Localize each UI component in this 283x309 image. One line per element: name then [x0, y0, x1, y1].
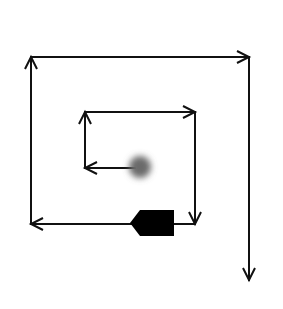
arrow-seg-8 [243, 57, 255, 280]
spiral-diagram [0, 0, 283, 309]
arrow-seg-1 [85, 162, 135, 174]
arrow-seg-7 [31, 51, 249, 63]
arrow-seg-2 [79, 112, 91, 168]
arrow-seg-4 [189, 112, 201, 224]
start-dot-icon [129, 156, 151, 178]
arrow-seg-3 [85, 106, 195, 118]
arrow-seg-6 [25, 57, 37, 224]
diagram-svg [0, 0, 283, 309]
black-pentagon-block [130, 210, 174, 236]
